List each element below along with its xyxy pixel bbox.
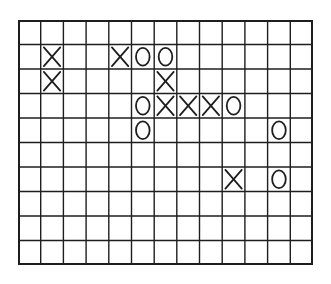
board-cell[interactable] [154, 167, 177, 192]
board-cell[interactable] [63, 241, 86, 266]
board-cell[interactable] [18, 143, 41, 168]
board-cell[interactable] [177, 69, 200, 94]
board-cell[interactable] [200, 192, 223, 217]
board-cell[interactable] [63, 94, 86, 119]
board-cell[interactable] [18, 192, 41, 217]
board-cell[interactable] [18, 118, 41, 143]
board-cell[interactable] [41, 94, 64, 119]
board-cell[interactable] [222, 118, 245, 143]
board-cell[interactable] [63, 143, 86, 168]
board-cell[interactable] [290, 69, 313, 94]
board-cell[interactable] [268, 216, 291, 241]
board-cell[interactable] [200, 20, 223, 45]
board-cell[interactable] [18, 69, 41, 94]
board-cell[interactable] [18, 167, 41, 192]
board-cell[interactable] [177, 216, 200, 241]
board-cell[interactable] [290, 143, 313, 168]
board-cell[interactable] [177, 167, 200, 192]
board-cell[interactable] [290, 118, 313, 143]
board-cell[interactable] [131, 216, 154, 241]
board-cell[interactable] [177, 192, 200, 217]
board-cell[interactable] [222, 216, 245, 241]
board-cell[interactable] [109, 216, 132, 241]
board-cell[interactable] [86, 69, 109, 94]
board-cell[interactable] [86, 167, 109, 192]
board-cell[interactable] [41, 192, 64, 217]
board-cell[interactable] [200, 69, 223, 94]
board-cell[interactable] [245, 118, 268, 143]
board-cell[interactable] [109, 143, 132, 168]
board-cell[interactable] [222, 143, 245, 168]
board-cell[interactable] [41, 20, 64, 45]
board-cell[interactable] [245, 69, 268, 94]
board-cell[interactable] [177, 20, 200, 45]
board-cell[interactable] [63, 167, 86, 192]
board-cell[interactable] [86, 192, 109, 217]
board-cell[interactable] [41, 241, 64, 266]
board-cell[interactable] [222, 192, 245, 217]
board-cell[interactable] [41, 118, 64, 143]
board-cell[interactable] [200, 143, 223, 168]
board-cell[interactable] [268, 20, 291, 45]
board-cell[interactable] [154, 192, 177, 217]
board-cell[interactable] [245, 216, 268, 241]
board-cell[interactable] [86, 45, 109, 70]
board-cell[interactable] [268, 143, 291, 168]
board-cell[interactable] [200, 216, 223, 241]
board-cell[interactable] [245, 192, 268, 217]
board-cell[interactable] [200, 167, 223, 192]
board-cell[interactable] [245, 167, 268, 192]
board-cell[interactable] [268, 241, 291, 266]
board-cell[interactable] [41, 143, 64, 168]
board-cell[interactable] [131, 143, 154, 168]
board-cell[interactable] [131, 192, 154, 217]
board-cell[interactable] [154, 143, 177, 168]
board-cell[interactable] [41, 216, 64, 241]
board-cell[interactable] [222, 20, 245, 45]
board-cell[interactable] [109, 241, 132, 266]
board-cell[interactable] [18, 241, 41, 266]
board-cell[interactable] [177, 143, 200, 168]
board-cell[interactable] [245, 45, 268, 70]
board-cell[interactable] [41, 167, 64, 192]
board-cell[interactable] [131, 167, 154, 192]
board-cell[interactable] [222, 241, 245, 266]
board-cell[interactable] [222, 69, 245, 94]
board-cell[interactable] [131, 241, 154, 266]
board-cell[interactable] [154, 241, 177, 266]
board-cell[interactable] [290, 20, 313, 45]
board-cell[interactable] [290, 216, 313, 241]
board-cell[interactable] [268, 45, 291, 70]
board-cell[interactable] [200, 241, 223, 266]
board-cell[interactable] [177, 241, 200, 266]
board-cell[interactable] [18, 216, 41, 241]
board-cell[interactable] [18, 94, 41, 119]
board-cell[interactable] [131, 20, 154, 45]
board-cell[interactable] [63, 118, 86, 143]
board-cell[interactable] [245, 143, 268, 168]
board-cell[interactable] [268, 69, 291, 94]
board-cell[interactable] [109, 192, 132, 217]
board-cell[interactable] [63, 20, 86, 45]
board-cell[interactable] [268, 94, 291, 119]
board-cell[interactable] [154, 20, 177, 45]
board-cell[interactable] [268, 192, 291, 217]
board-cell[interactable] [222, 45, 245, 70]
board-cell[interactable] [18, 20, 41, 45]
board-cell[interactable] [177, 118, 200, 143]
board-cell[interactable] [86, 118, 109, 143]
board-cell[interactable] [63, 45, 86, 70]
board-cell[interactable] [290, 45, 313, 70]
board-cell[interactable] [18, 45, 41, 70]
board-cell[interactable] [63, 216, 86, 241]
board-cell[interactable] [86, 241, 109, 266]
board-cell[interactable] [290, 167, 313, 192]
board-cell[interactable] [63, 192, 86, 217]
board-cell[interactable] [131, 69, 154, 94]
board-cell[interactable] [109, 167, 132, 192]
board-cell[interactable] [245, 20, 268, 45]
board-cell[interactable] [86, 143, 109, 168]
board-cell[interactable] [109, 69, 132, 94]
board-cell[interactable] [109, 20, 132, 45]
board-cell[interactable] [63, 69, 86, 94]
